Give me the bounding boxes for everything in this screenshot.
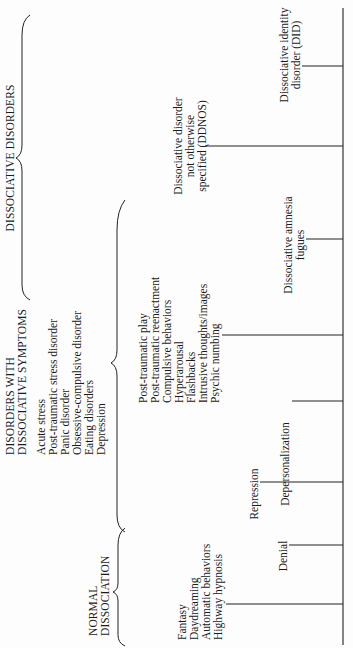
label-ddnos-line: not otherwise	[184, 115, 196, 177]
heading-disorders-with-symptoms-line: DISSOCIATIVE SYMPTOMS	[16, 309, 28, 455]
label-did-line: disorder (DID)	[290, 21, 303, 90]
label-denial: Denial	[277, 541, 289, 572]
label-ddnos-line: specified (DDNOS)	[196, 100, 209, 192]
heading-disorders-with-symptoms: DISORDERS WITHDISSOCIATIVE SYMPTOMS	[4, 309, 28, 455]
label-normal-line: Highway hypnosis	[212, 554, 225, 640]
heading-disorders-with-symptoms-line: DISORDERS WITH	[4, 357, 16, 455]
label-depersonalization-line: Depersonalization	[279, 422, 292, 506]
list-disorders-with-symptoms-line: Panic disorder	[59, 389, 71, 455]
brace-disorders-with-symptoms	[111, 200, 125, 532]
heading-normal-dissociation-line: NORMAL	[87, 586, 99, 636]
label-normal: FantasyDaydreamingAutomatic behaviorsHig…	[176, 543, 225, 640]
label-denial-line: Denial	[277, 541, 289, 572]
label-amnesia-line: fugues	[294, 229, 307, 260]
diagram-canvas: DISSOCIATIVE DISORDERSDISORDERS WITHDISS…	[0, 0, 353, 648]
list-disorders-with-symptoms-line: Acute stress	[35, 399, 47, 455]
heading-normal-dissociation: NORMALDISSOCIATION	[87, 555, 111, 636]
label-amnesia-line: Dissociative amnesia	[282, 196, 294, 293]
label-amnesia: Dissociative amnesiafugues	[282, 196, 307, 293]
heading-dissociative-disorders-line: DISSOCIATIVE DISORDERS	[4, 85, 16, 232]
label-normal-line: Automatic behaviors	[200, 543, 212, 640]
label-repression: Repression	[248, 468, 261, 519]
label-depersonalization: Depersonalization	[279, 422, 292, 506]
label-ptsd-symptoms-line: Post-traumatic reenactment	[149, 276, 161, 403]
heading-normal-dissociation-line: DISSOCIATION	[99, 555, 111, 636]
label-did: Dissociative identitydisorder (DID)	[278, 7, 303, 102]
label-ptsd-symptoms: Post-traumatic playPost-traumatic reenac…	[137, 276, 222, 403]
label-repression-line: Repression	[248, 468, 261, 519]
list-disorders-with-symptoms-line: Depression	[95, 403, 108, 455]
list-disorders-with-symptoms: Acute stressPost-traumatic stress disord…	[35, 311, 108, 455]
dissociation-continuum-diagram: DISSOCIATIVE DISORDERSDISORDERS WITHDISS…	[0, 0, 353, 648]
list-disorders-with-symptoms-line: Post-traumatic stress disorder	[47, 319, 59, 455]
label-ptsd-symptoms-line: Flashbacks	[185, 351, 197, 403]
heading-dissociative-disorders: DISSOCIATIVE DISORDERS	[4, 85, 16, 232]
label-ddnos-line: Dissociative disorder	[172, 97, 184, 195]
label-ddnos: Dissociative disordernot otherwisespecif…	[172, 97, 209, 195]
label-ptsd-symptoms-line: Psychic numbing	[209, 323, 222, 403]
brace-normal-dissociation	[113, 528, 125, 646]
brace-dissociative-disorders	[16, 15, 30, 300]
